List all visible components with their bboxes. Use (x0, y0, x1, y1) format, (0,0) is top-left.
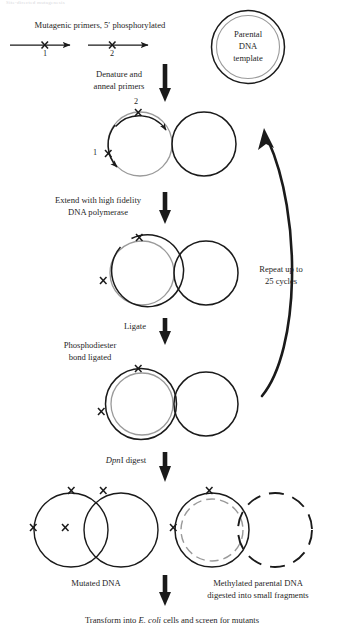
mutated-dna-product (30, 487, 158, 567)
repeat-cycle-arrow (258, 128, 292, 396)
annealed-primer-2-number: 2 (126, 97, 146, 107)
step-denature-line1: Denature and (73, 69, 165, 79)
mutated-mark-d (62, 524, 69, 531)
dpni-enzyme-name: Dpn (106, 455, 121, 465)
methylated-parental-caption-line2: digested into small fragments (178, 590, 338, 600)
diagram-canvas (0, 0, 345, 630)
primer-1-arrow (10, 42, 70, 49)
extended-template-strand (110, 241, 174, 305)
primer-2-number: 2 (100, 49, 124, 59)
repeat-cycles-line2: 25 cycles (243, 276, 319, 286)
ecoli-species-name: E. coli (139, 615, 161, 625)
extended-stage (100, 234, 238, 307)
step-extend-line2: DNA polymerase (33, 207, 163, 217)
methylated-parental-caption-line1: Methylated parental DNA (178, 578, 338, 588)
parental-template-line2: DNA (218, 41, 278, 51)
methylated-intact-circle (175, 493, 249, 567)
dpni-digest-suffix: I digest (121, 455, 147, 465)
mutated-dna-caption: Mutated DNA (36, 578, 156, 588)
step-phosphodiester-line1: Phosphodiester (36, 340, 144, 350)
parental-template-line3: template (218, 53, 278, 63)
extended-mutation-mark-1 (100, 277, 107, 284)
transform-post: cells and screen for mutants (161, 615, 259, 625)
mutated-mark-b (100, 487, 107, 494)
step-dpni-digest: DpnI digest (88, 455, 164, 465)
extended-new-strand (112, 235, 184, 307)
ligated-second-strand (174, 372, 238, 436)
mutated-mark-c (30, 524, 37, 531)
step-denature-line2: anneal primers (73, 81, 165, 91)
primer-2-arrow (88, 42, 148, 49)
methylated-parental-product (170, 487, 312, 567)
annealed-template-strand (108, 112, 172, 176)
annealed-primer-1-arc (108, 125, 117, 167)
primer-1-number: 1 (33, 49, 57, 59)
ligated-closed-new-strand (106, 369, 177, 440)
arrow-transform (159, 575, 171, 606)
methylated-digested-inner (181, 499, 243, 561)
repeat-cycles-line1: Repeat up to (243, 264, 319, 274)
step-ligate-label: Ligate (108, 321, 162, 331)
annealed-stage (105, 109, 236, 176)
annealed-primer-1-number: 1 (87, 148, 103, 158)
ligated-mutation-mark-1 (98, 408, 105, 415)
transform-pre: Transform into (85, 615, 139, 625)
ligated-stage (98, 365, 238, 440)
annealed-second-strand (172, 112, 236, 176)
ligated-template-strand (111, 373, 173, 435)
parental-template-line1: Parental (218, 29, 278, 39)
mutagenesis-diagram: Site-directed mutagenesis Mutagenic prim… (0, 0, 345, 630)
transform-caption: Transform into E. coli cells and screen … (22, 615, 322, 625)
step-extend-line1: Extend with high fidelity (33, 195, 163, 205)
step-phosphodiester-line2: bond ligated (36, 352, 144, 362)
